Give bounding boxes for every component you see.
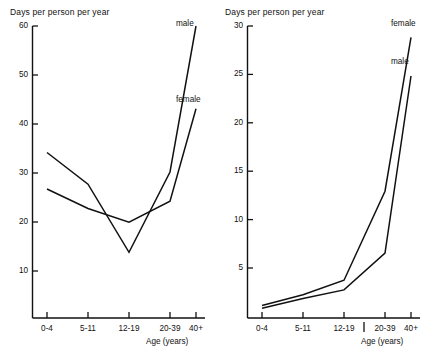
right-x-tick-label-40-plus: 40+ bbox=[394, 324, 428, 333]
left-y-tick-label-20: 20 bbox=[6, 217, 28, 226]
left-x-axis-caption: Age (years) bbox=[146, 337, 188, 346]
left-y-tick-label-10: 10 bbox=[6, 266, 28, 275]
left-y-tick-label-60: 60 bbox=[6, 21, 28, 30]
left-x-tick-label-5-11: 5-11 bbox=[68, 324, 108, 333]
left-y-tick-label-30: 30 bbox=[6, 168, 28, 177]
left-series-label-female: female bbox=[176, 95, 201, 104]
right-y-tick-label-25: 25 bbox=[221, 69, 243, 78]
right-y-tick-label-20: 20 bbox=[221, 118, 243, 127]
left-series-male bbox=[47, 26, 196, 252]
left-y-tick-label-50: 50 bbox=[6, 70, 28, 79]
left-series-female bbox=[47, 109, 196, 222]
right-x-tick-label-0-4: 0-4 bbox=[242, 324, 282, 333]
right-y-tick-label-10: 10 bbox=[221, 215, 243, 224]
right-y-tick-label-5: 5 bbox=[221, 263, 243, 272]
left-chart-panel: Days per person per year 60 50 40 bbox=[0, 0, 214, 354]
right-y-tick-label-30: 30 bbox=[221, 21, 243, 30]
right-x-tick-label-12-19: 12-19 bbox=[324, 324, 364, 333]
right-x-axis-caption: Age (years) bbox=[361, 337, 403, 346]
left-chart-plot bbox=[0, 0, 214, 354]
right-series-label-female: female bbox=[391, 19, 416, 28]
right-chart-panel: Days per person per year bbox=[214, 0, 428, 354]
left-x-ticks bbox=[47, 312, 196, 318]
right-y-ticks bbox=[248, 26, 254, 268]
left-x-tick-label-40-plus: 40+ bbox=[179, 324, 213, 333]
left-series-label-male: male bbox=[176, 19, 194, 28]
left-y-ticks bbox=[33, 26, 39, 271]
right-series-female bbox=[262, 37, 411, 305]
left-x-tick-label-0-4: 0-4 bbox=[27, 324, 67, 333]
right-chart-plot bbox=[214, 0, 428, 354]
left-y-tick-label-40: 40 bbox=[6, 119, 28, 128]
right-y-tick-label-15: 15 bbox=[221, 166, 243, 175]
right-series-male bbox=[262, 76, 411, 308]
right-series-label-male: male bbox=[391, 57, 409, 66]
left-x-tick-label-12-19: 12-19 bbox=[109, 324, 149, 333]
right-x-tick-label-5-11: 5-11 bbox=[283, 324, 323, 333]
